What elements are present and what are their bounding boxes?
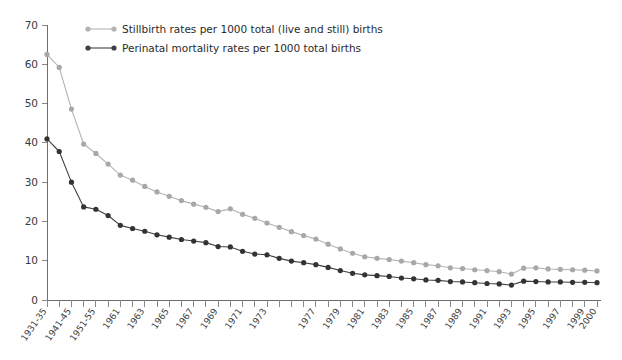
data-point xyxy=(252,251,257,256)
data-point xyxy=(387,274,392,279)
data-point xyxy=(399,259,404,264)
data-point xyxy=(81,141,86,146)
data-point xyxy=(436,278,441,283)
data-point xyxy=(203,205,208,210)
data-point xyxy=(448,265,453,270)
data-point xyxy=(570,280,575,285)
data-point xyxy=(338,246,343,251)
legend-label: Stillbirth rates per 1000 total (live an… xyxy=(122,23,383,35)
data-point xyxy=(118,172,123,177)
y-tick-label: 50 xyxy=(25,97,38,109)
data-point xyxy=(594,280,599,285)
data-point xyxy=(326,242,331,247)
y-tick-label: 40 xyxy=(25,136,38,148)
data-point xyxy=(93,151,98,156)
data-point xyxy=(69,106,74,111)
legend-marker xyxy=(111,45,116,50)
data-point xyxy=(497,281,502,286)
data-point xyxy=(44,52,49,57)
data-point xyxy=(533,279,538,284)
line-chart: 010203040506070 1931-351941-451951-55196… xyxy=(0,0,622,360)
data-point xyxy=(289,259,294,264)
data-point xyxy=(484,281,489,286)
chart-container: 010203040506070 1931-351941-451951-55196… xyxy=(0,0,622,360)
data-point xyxy=(313,237,318,242)
data-point xyxy=(240,212,245,217)
y-tick-label: 30 xyxy=(25,176,38,188)
y-tick-label: 70 xyxy=(25,19,38,31)
data-point xyxy=(167,235,172,240)
data-point xyxy=(106,213,111,218)
data-point xyxy=(484,268,489,273)
data-point xyxy=(142,229,147,234)
data-point xyxy=(472,267,477,272)
data-point xyxy=(130,226,135,231)
data-point xyxy=(57,65,62,70)
data-point xyxy=(374,273,379,278)
data-point xyxy=(191,238,196,243)
data-point xyxy=(93,207,98,212)
legend-marker xyxy=(111,26,116,31)
data-point xyxy=(594,268,599,273)
data-point xyxy=(252,216,257,221)
data-point xyxy=(179,237,184,242)
data-point xyxy=(521,279,526,284)
data-point xyxy=(326,265,331,270)
data-point xyxy=(558,279,563,284)
data-point xyxy=(362,254,367,259)
data-point xyxy=(509,282,514,287)
data-point xyxy=(472,280,477,285)
data-point xyxy=(338,268,343,273)
data-point xyxy=(460,279,465,284)
data-point xyxy=(44,136,49,141)
data-point xyxy=(313,262,318,267)
data-point xyxy=(289,229,294,234)
data-point xyxy=(264,252,269,257)
data-point xyxy=(154,189,159,194)
data-point xyxy=(228,244,233,249)
data-point xyxy=(216,244,221,249)
data-point xyxy=(277,225,282,230)
data-point xyxy=(69,180,74,185)
data-point xyxy=(118,223,123,228)
data-point xyxy=(81,204,86,209)
y-tick-label: 20 xyxy=(25,215,38,227)
y-tick-label: 10 xyxy=(25,254,38,266)
data-point xyxy=(387,257,392,262)
data-point xyxy=(106,161,111,166)
data-point xyxy=(423,262,428,267)
data-point xyxy=(264,220,269,225)
data-point xyxy=(546,279,551,284)
data-point xyxy=(582,280,587,285)
data-point xyxy=(142,184,147,189)
data-point xyxy=(167,194,172,199)
data-point xyxy=(191,202,196,207)
data-point xyxy=(301,260,306,265)
data-point xyxy=(546,266,551,271)
data-point xyxy=(179,198,184,203)
data-point xyxy=(497,269,502,274)
legend-label: Perinatal mortality rates per 1000 total… xyxy=(122,42,361,54)
data-point xyxy=(423,277,428,282)
data-point xyxy=(582,268,587,273)
data-point xyxy=(216,209,221,214)
data-point xyxy=(228,206,233,211)
data-point xyxy=(448,279,453,284)
data-point xyxy=(533,265,538,270)
legend-marker xyxy=(85,45,90,50)
data-point xyxy=(350,251,355,256)
data-point xyxy=(521,266,526,271)
data-point xyxy=(411,260,416,265)
data-point xyxy=(570,267,575,272)
data-point xyxy=(130,178,135,183)
y-tick-label: 0 xyxy=(31,294,38,306)
data-point xyxy=(154,232,159,237)
data-point xyxy=(411,276,416,281)
data-point xyxy=(362,272,367,277)
data-point xyxy=(350,271,355,276)
data-point xyxy=(558,267,563,272)
data-point xyxy=(374,256,379,261)
data-point xyxy=(240,249,245,254)
y-tick-label: 60 xyxy=(25,58,38,70)
data-point xyxy=(509,271,514,276)
